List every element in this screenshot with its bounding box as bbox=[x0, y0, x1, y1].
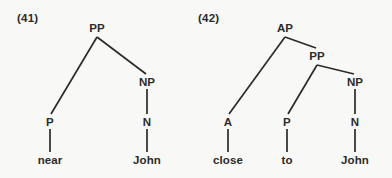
node-pp-42: PP bbox=[309, 50, 325, 62]
branch-pp-to-np bbox=[97, 37, 146, 74]
branch-ap-to-pp bbox=[285, 37, 316, 48]
branch-ap-to-a bbox=[229, 37, 285, 114]
leaf-near-41: near bbox=[38, 154, 63, 166]
node-np-41: NP bbox=[139, 76, 155, 88]
node-np-42: NP bbox=[347, 76, 363, 88]
tree-41-branches bbox=[50, 37, 147, 152]
leaf-john-41: John bbox=[133, 154, 161, 166]
leaf-john-42: John bbox=[341, 154, 369, 166]
branch-pp-to-p2 bbox=[288, 65, 317, 114]
node-n-42: N bbox=[351, 116, 359, 128]
example-number-42: (42) bbox=[198, 12, 219, 24]
node-n-41: N bbox=[143, 116, 151, 128]
node-p-41: P bbox=[46, 116, 54, 128]
example-number-41: (41) bbox=[17, 12, 38, 24]
branch-pp-to-np2 bbox=[317, 65, 354, 74]
node-ap-root-42: AP bbox=[277, 22, 293, 34]
tree-branch-lines bbox=[0, 0, 392, 178]
node-pp-root-41: PP bbox=[89, 22, 105, 34]
leaf-close-42: close bbox=[213, 154, 243, 166]
branch-pp-to-p bbox=[51, 37, 97, 114]
node-a-42: A bbox=[224, 116, 232, 128]
syntax-tree-figure: (41) PP NP P N near John (42) AP PP NP A… bbox=[0, 0, 392, 178]
leaf-to-42: to bbox=[281, 154, 292, 166]
node-p-42: P bbox=[283, 116, 291, 128]
tree-42-branches bbox=[228, 37, 355, 152]
